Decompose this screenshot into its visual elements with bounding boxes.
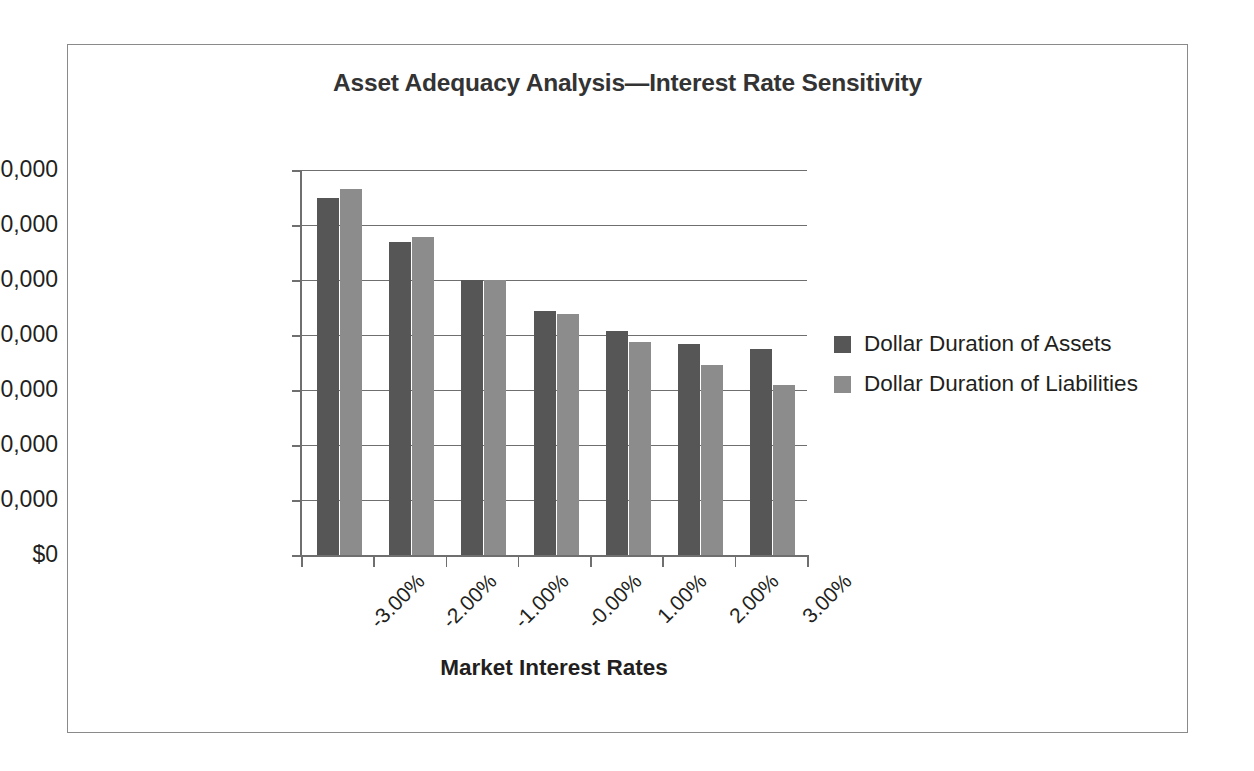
plot-area — [301, 170, 807, 555]
y-axis-tick — [292, 555, 301, 557]
x-axis-tick — [735, 555, 737, 567]
y-axis-tick-label: $0 — [0, 543, 58, 566]
y-axis-tick-label: $60,000,000,000 — [0, 213, 58, 236]
bar-group[interactable] — [389, 170, 434, 555]
bar[interactable] — [773, 385, 795, 556]
y-axis-tick-label: $20,000,000,000 — [0, 433, 58, 456]
x-axis-category-label: 3.00% — [797, 569, 856, 628]
bar[interactable] — [340, 189, 362, 555]
y-axis-tick — [292, 170, 301, 172]
x-axis-line — [301, 555, 807, 557]
x-axis-tick — [373, 555, 375, 567]
legend-item[interactable]: Dollar Duration of Assets — [834, 331, 1174, 357]
x-axis-tick — [662, 555, 664, 567]
bar[interactable] — [461, 280, 483, 555]
bar[interactable] — [750, 349, 772, 555]
y-axis-tick-label: $70,000,000,000 — [0, 158, 58, 181]
bar-group[interactable] — [317, 170, 362, 555]
legend-label: Dollar Duration of Liabilities — [864, 371, 1138, 397]
bar[interactable] — [678, 344, 700, 555]
x-axis-category-label: -2.00% — [438, 569, 502, 633]
chart-legend: Dollar Duration of AssetsDollar Duration… — [834, 331, 1174, 411]
bar[interactable] — [484, 280, 506, 555]
x-axis-tick — [518, 555, 520, 567]
y-axis-tick-label: $40,000,000,000 — [0, 323, 58, 346]
x-axis-title: Market Interest Rates — [301, 655, 807, 681]
legend-label: Dollar Duration of Assets — [864, 331, 1112, 357]
y-axis-tick-label: $30,000,000,000 — [0, 378, 58, 401]
x-axis-category-label: 1.00% — [652, 569, 711, 628]
x-axis-category-label: -3.00% — [365, 569, 429, 633]
bar[interactable] — [701, 365, 723, 555]
x-axis-tick — [807, 555, 809, 567]
bar[interactable] — [412, 237, 434, 555]
bar[interactable] — [606, 331, 628, 555]
legend-swatch-icon — [834, 376, 851, 393]
bar[interactable] — [629, 342, 651, 555]
y-axis-tick — [292, 445, 301, 447]
bar-group[interactable] — [606, 170, 651, 555]
bar-group[interactable] — [461, 170, 506, 555]
chart-frame: Asset Adequacy Analysis—Interest Rate Se… — [67, 44, 1188, 733]
bar[interactable] — [389, 242, 411, 555]
y-axis-tick-label: $10,000,000,000 — [0, 488, 58, 511]
y-axis-tick — [292, 335, 301, 337]
bar[interactable] — [534, 311, 556, 555]
x-axis-category-label: -1.00% — [510, 569, 574, 633]
y-axis-line — [300, 170, 302, 555]
y-axis-tick — [292, 225, 301, 227]
x-axis-tick — [446, 555, 448, 567]
chart-title: Asset Adequacy Analysis—Interest Rate Se… — [68, 69, 1187, 97]
x-axis-tick — [590, 555, 592, 567]
bar[interactable] — [317, 198, 339, 555]
bar-group[interactable] — [750, 170, 795, 555]
legend-item[interactable]: Dollar Duration of Liabilities — [834, 371, 1174, 397]
y-axis-tick — [292, 500, 301, 502]
y-axis-tick-labels: $0$10,000,000,000$20,000,000,000$30,000,… — [0, 170, 58, 555]
x-axis-category-label: -0.00% — [582, 569, 646, 633]
y-axis-tick — [292, 390, 301, 392]
bar[interactable] — [557, 314, 579, 555]
x-axis-tick — [301, 555, 303, 567]
y-axis-tick-label: $50,000,000,000 — [0, 268, 58, 291]
y-axis-tick — [292, 280, 301, 282]
x-axis-category-label: 2.00% — [725, 569, 784, 628]
x-axis — [301, 555, 807, 567]
bar-group[interactable] — [534, 170, 579, 555]
legend-swatch-icon — [834, 336, 851, 353]
bar-group[interactable] — [678, 170, 723, 555]
